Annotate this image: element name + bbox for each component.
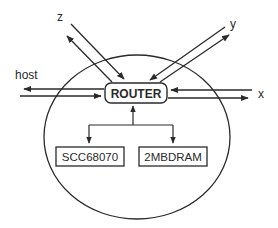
cpu-label: SCC68070 [62,151,118,163]
x-link [168,90,252,98]
x-port-label: x [258,87,264,101]
router-label: ROUTER [111,87,162,101]
dram-label: 2MBDRAM [144,151,202,163]
internal-bus [89,106,173,143]
router-node: ROUTER [105,83,167,103]
cpu-component: SCC68070 [56,147,124,166]
y-link [150,27,229,82]
host-link [20,89,104,96]
dram-component: 2MBDRAM [139,147,207,166]
y-port-label: y [230,17,236,31]
z-port-label: z [57,10,63,24]
node-diagram: ROUTER SCC68070 2MBDRAM z y host x [0,0,278,228]
host-port-label: host [15,68,38,82]
z-link [67,24,124,82]
node-boundary [44,55,230,219]
